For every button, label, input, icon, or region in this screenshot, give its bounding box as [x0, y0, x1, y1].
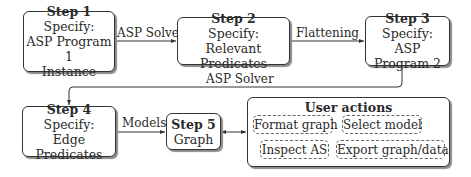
edge-label-flattening: Flattening	[296, 26, 359, 40]
step-1-line-3: Instance	[42, 64, 96, 79]
step-3-line-1: Specify:	[382, 26, 433, 41]
step-5-title: Step 5	[171, 117, 216, 132]
edge-label-asp-solver-1: ASP Solver	[117, 26, 185, 40]
user-actions-title: User actions	[305, 100, 393, 115]
step-4-box: Step 4 Specify: Edge Predicates	[22, 106, 116, 157]
action-format-graph[interactable]: Format graph	[253, 115, 333, 134]
edge-label-asp-solver-2: ASP Solver	[206, 72, 274, 86]
step-5-line-1: Graph	[174, 132, 213, 147]
step-1-line-2: ASP Program 1	[24, 34, 114, 64]
action-inspect-as[interactable]: Inspect AS	[260, 140, 329, 159]
step-3-title: Step 3	[385, 11, 430, 26]
step-2-line-2: Relevant Predicates	[178, 41, 289, 71]
step-2-title: Step 2	[211, 11, 256, 26]
step-4-title: Step 4	[47, 102, 92, 117]
step-4-line-1: Specify:	[44, 117, 95, 132]
step-2-box: Step 2 Specify: Relevant Predicates	[177, 17, 290, 65]
step-3-line-2: ASP Program 2	[366, 41, 449, 71]
step-3-box: Step 3 Specify: ASP Program 2	[365, 16, 450, 66]
action-export-graph-data[interactable]: Export graph/data	[336, 140, 445, 159]
step-1-line-1: Specify:	[44, 19, 95, 34]
action-select-model[interactable]: Select model	[342, 115, 422, 134]
step-4-line-2: Edge Predicates	[23, 132, 115, 162]
step-1-box: Step 1 Specify: ASP Program 1 Instance	[23, 11, 115, 72]
edge-label-models: Models	[122, 116, 166, 130]
step-5-box: Step 5 Graph	[166, 113, 221, 150]
step-1-title: Step 1	[47, 4, 92, 19]
step-2-line-1: Specify:	[208, 26, 259, 41]
